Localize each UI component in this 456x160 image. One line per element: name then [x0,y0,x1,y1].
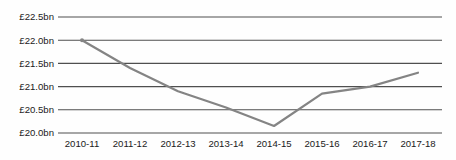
y-tick-label: £22.0bn [19,35,54,46]
x-tick-label: 2011-12 [113,138,148,149]
x-tick-label: 2017-18 [400,138,435,149]
x-tick-label: 2015-16 [304,138,339,149]
x-tick-label: 2014-15 [256,138,291,149]
y-tick-label: £20.0bn [19,127,54,138]
y-tick-label: £21.5bn [19,58,54,69]
x-tick-label: 2013-14 [208,138,244,149]
line-chart: £20.0bn£20.5bn£21.0bn£21.5bn£22.0bn£22.5… [0,0,456,160]
chart: £20.0bn£20.5bn£21.0bn£21.5bn£22.0bn£22.5… [0,0,456,160]
data-point-marker [80,38,84,42]
x-tick-label: 2012-13 [160,138,195,149]
y-tick-label: £20.5bn [19,104,54,115]
x-tick-label: 2010-11 [65,138,100,149]
y-tick-label: £22.5bn [19,11,54,22]
chart-background [0,0,456,160]
y-tick-label: £21.0bn [19,81,54,92]
x-tick-label: 2016-17 [352,138,387,149]
